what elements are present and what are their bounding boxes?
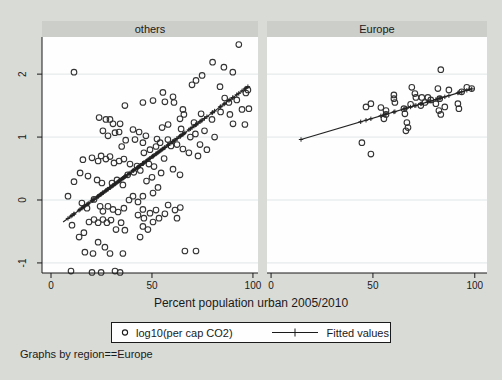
by-graph-caption: Graphs by region==Europe — [20, 348, 153, 360]
x-axis-title: Percent population urban 2005/2010 — [0, 296, 502, 310]
stata-by-graph: 210-1050100050100 others Europe Percent … — [0, 0, 502, 380]
fitted-line-icon — [271, 327, 319, 338]
svg-text:0: 0 — [268, 280, 274, 291]
panel-title-band-others: others — [42, 21, 258, 37]
legend-label-scatter: log10(per cap CO2) — [136, 327, 233, 339]
svg-text:50: 50 — [146, 280, 158, 291]
svg-text:50: 50 — [367, 280, 379, 291]
svg-text:-1: -1 — [17, 258, 28, 267]
legend-box: log10(per cap CO2) Fitted values — [111, 322, 391, 343]
svg-text:100: 100 — [466, 280, 483, 291]
panel-title-europe: Europe — [359, 21, 394, 37]
svg-text:100: 100 — [245, 280, 262, 291]
svg-text:0: 0 — [17, 197, 28, 203]
panel-title-band-europe: Europe — [267, 21, 487, 37]
svg-text:2: 2 — [17, 71, 28, 77]
circle-marker-icon — [119, 327, 131, 338]
svg-text:0: 0 — [48, 280, 54, 291]
legend-label-fit: Fitted values — [327, 327, 389, 339]
svg-text:1: 1 — [17, 134, 28, 140]
panel-title-others: others — [135, 21, 166, 37]
